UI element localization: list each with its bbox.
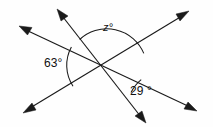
arrow-head-lower-left: [23, 103, 36, 113]
arrow-head-lower-middle: [135, 111, 146, 123]
angle-label-63: 63°: [44, 57, 62, 69]
line-upper-middle-to-lower-middle: [63, 17, 141, 117]
angle-label-z: z°: [103, 22, 113, 33]
arrow-head-lower-right: [184, 102, 197, 111]
arrow-head-upper-right: [176, 11, 189, 21]
arrow-head-upper-middle: [57, 9, 68, 21]
angle-label-29: 29 °: [130, 85, 152, 97]
arc-63-angle: [67, 47, 73, 86]
arrow-head-upper-left: [19, 26, 32, 35]
geometry-figure: [0, 0, 213, 127]
angle-diagram: z° 63° 29 °: [0, 0, 213, 127]
